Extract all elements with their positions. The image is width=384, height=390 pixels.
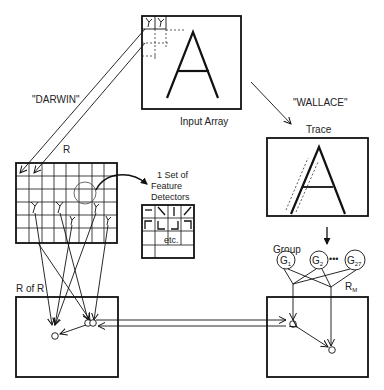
wallace-label: "WALLACE" [293, 97, 348, 108]
rofr-node-3 [90, 320, 97, 327]
reentrant-connections [96, 320, 286, 326]
rm-node-1 [290, 321, 297, 328]
rm-node-2 [329, 347, 336, 354]
feature-label-line1: 1 Set of [157, 170, 189, 180]
trace-label: Trace [306, 124, 332, 135]
wallace-arrow [251, 82, 291, 124]
trace-panel [267, 138, 368, 216]
r-grid [16, 163, 117, 243]
group-g2: G2 [310, 251, 328, 269]
feature-detectors-panel: etc. [142, 205, 194, 258]
feature-etc-label: etc. [164, 235, 179, 245]
diagram-canvas: Input Array "DARWIN" "WALLACE" R [0, 0, 384, 390]
r-of-r-panel [16, 297, 118, 377]
r-of-r-label: R of R [16, 283, 44, 294]
input-letter-a [167, 32, 218, 98]
input-array-label: Input Array [180, 116, 228, 127]
group-g1: G1 [277, 251, 295, 269]
feature-label-line3: Detectors [151, 192, 190, 202]
input-receptive-grid [142, 16, 184, 61]
darwin-label: "DARWIN" [32, 94, 80, 105]
r-m-label: RM [345, 281, 357, 293]
feature-label-line2: Feature [151, 181, 182, 191]
group-g27: G27 [345, 250, 365, 270]
r-to-rofr-projections [35, 213, 108, 325]
rofr-node-1 [52, 333, 59, 340]
group-ellipsis: ••• [329, 254, 338, 264]
r-label: R [63, 144, 70, 155]
input-array-panel [142, 16, 241, 109]
selected-region-circle [74, 182, 96, 204]
r-m-panel [267, 297, 368, 377]
